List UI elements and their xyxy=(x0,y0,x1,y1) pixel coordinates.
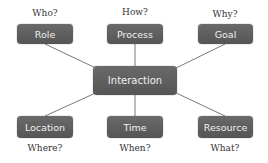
node-process: Process xyxy=(107,24,163,44)
question-how: How? xyxy=(105,7,165,17)
node-role: Role xyxy=(17,24,73,44)
question-where: Where? xyxy=(15,143,75,153)
question-who: Who? xyxy=(15,8,75,18)
node-time: Time xyxy=(107,116,163,138)
question-when: When? xyxy=(105,143,165,153)
interaction-diagram: Who? Role How? Process Why? Goal Interac… xyxy=(0,0,268,163)
node-resource: Resource xyxy=(198,116,253,138)
question-what: What? xyxy=(195,143,255,153)
node-location: Location xyxy=(17,116,73,138)
node-goal: Goal xyxy=(198,24,253,44)
question-why: Why? xyxy=(195,9,255,19)
node-interaction: Interaction xyxy=(93,66,177,95)
